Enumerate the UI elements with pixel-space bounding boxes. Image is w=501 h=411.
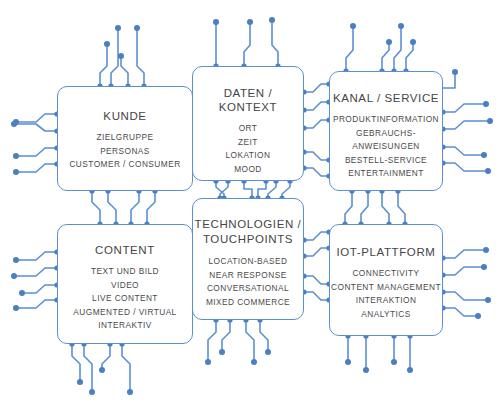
node-item: PERSONAS [69, 145, 180, 159]
node-item: PRODUKTINFORMATION [333, 113, 439, 127]
node-item: CUSTOMER / CONSUMER [69, 158, 180, 172]
node-item: CONTENT MANAGEMENT [331, 281, 441, 295]
node-item: AUGMENTED / VIRTUAL [73, 306, 176, 320]
node-items: ZIELGRUPPE PERSONAS CUSTOMER / CONSUMER [69, 131, 180, 172]
node-item: GEBRAUCHS- [333, 127, 439, 141]
node-item: LOKATION [226, 149, 271, 163]
node-item: INTERAKTION [331, 294, 441, 308]
node-items: PRODUKTINFORMATION GEBRAUCHS- ANWEISUNGE… [333, 113, 439, 181]
node-item: CONVERSATIONAL [206, 282, 290, 296]
node-items: TEXT UND BILD VIDEO LIVE CONTENT AUGMENT… [73, 265, 176, 333]
node-item: ORT [226, 122, 271, 136]
node-title: TECHNOLOGIEN / [195, 217, 302, 232]
node-kunde[interactable]: KUNDE ZIELGRUPPE PERSONAS CUSTOMER / CON… [57, 86, 193, 191]
node-item: ANALYTICS [331, 308, 441, 322]
node-iot-plattform[interactable]: IOT-PLATTFORM CONNECTIVITY CONTENT MANAG… [329, 224, 443, 336]
node-item: ZEIT [226, 136, 271, 150]
node-item: INTERAKTIV [73, 319, 176, 333]
node-item: ZIELGRUPPE [69, 131, 180, 145]
node-daten-kontext[interactable]: DATEN / KONTEXT ORT ZEIT LOKATION MOOD [192, 66, 304, 181]
node-title: DATEN / KONTEXT [193, 86, 303, 114]
node-title: CONTENT [95, 243, 155, 257]
node-items: LOCATION-BASED NEAR RESPONSE CONVERSATIO… [206, 255, 290, 309]
node-kanal-service[interactable]: KANAL / SERVICE PRODUKTINFORMATION GEBRA… [329, 71, 443, 191]
node-item: ANWEISUNGEN [333, 140, 439, 154]
node-item: LIVE CONTENT [73, 292, 176, 306]
node-content[interactable]: CONTENT TEXT UND BILD VIDEO LIVE CONTENT… [57, 224, 193, 344]
node-item: MIXED COMMERCE [206, 296, 290, 310]
node-item: VIDEO [73, 279, 176, 293]
node-item: BESTELL-SERVICE [333, 154, 439, 168]
node-item: MOOD [226, 163, 271, 177]
node-item: TEXT UND BILD [73, 265, 176, 279]
node-technologien-touchpoints[interactable]: TECHNOLOGIEN / TOUCHPOINTS LOCATION-BASE… [192, 198, 304, 320]
node-title: KANAL / SERVICE [333, 91, 439, 105]
node-title: IOT-PLATTFORM [337, 245, 436, 259]
node-item: CONNECTIVITY [331, 267, 441, 281]
node-title-line2: TOUCHPOINTS [203, 232, 293, 247]
node-title: KUNDE [103, 109, 146, 123]
node-item: LOCATION-BASED [206, 255, 290, 269]
node-items: CONNECTIVITY CONTENT MANAGEMENT INTERAKT… [331, 267, 441, 321]
node-item: NEAR RESPONSE [206, 269, 290, 283]
node-item: ENTERTAINMENT [333, 167, 439, 181]
diagram-canvas: KUNDE ZIELGRUPPE PERSONAS CUSTOMER / CON… [0, 0, 501, 411]
node-items: ORT ZEIT LOKATION MOOD [226, 122, 271, 176]
